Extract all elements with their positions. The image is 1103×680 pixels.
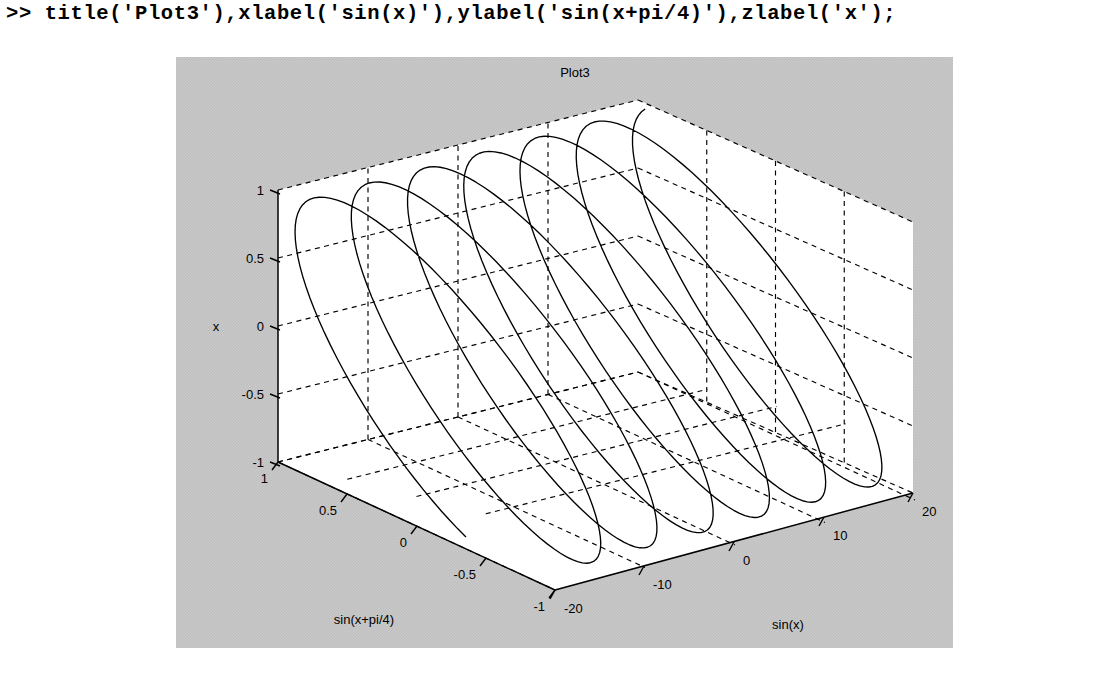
- x-tick-label-0: 0: [743, 553, 750, 568]
- z-tick-label-1: 1: [257, 183, 264, 198]
- x-tick-label-10: 10: [833, 528, 847, 543]
- console-command-line: >> title('Plot3'),xlabel('sin(x)'),ylabe…: [6, 2, 896, 25]
- y-tick-label-m1: -1: [533, 599, 545, 614]
- chart-title: Plot3: [560, 65, 590, 80]
- z-tick-label-0: 0: [257, 319, 264, 334]
- z-axis-label: x: [213, 319, 220, 334]
- y-tick-label-m0p5: -0.5: [454, 567, 476, 582]
- z-tick-label-0p5: 0.5: [246, 251, 264, 266]
- x-tick-label-m10: -10: [653, 577, 672, 592]
- y-tick-label-0p5: 0.5: [319, 503, 337, 518]
- z-tick-label-m0p5: -0.5: [242, 387, 264, 402]
- y-axis-label: sin(x+pi/4): [334, 612, 394, 627]
- y-tick-label-0: 0: [400, 535, 407, 550]
- x-tick-label-m20: -20: [564, 601, 583, 616]
- plot3-chart[interactable]: Plot3 1 0.5 0 -0.5 -1 x 1 0.5 0 -0.5 -1 …: [176, 57, 953, 648]
- x-axis-label: sin(x): [772, 617, 804, 632]
- z-tick-label-m1: -1: [252, 455, 264, 470]
- x-tick-label-20: 20: [922, 504, 936, 519]
- matlab-figure-window[interactable]: Plot3 1 0.5 0 -0.5 -1 x 1 0.5 0 -0.5 -1 …: [176, 57, 953, 648]
- y-tick-label-1: 1: [261, 471, 268, 486]
